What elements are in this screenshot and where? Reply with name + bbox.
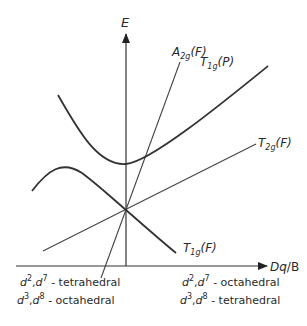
t1gf-label: T1g(F) (183, 241, 217, 257)
right-caption-line-1: d2,d7 - octahedral (182, 274, 280, 289)
left-caption-line-2: d3,d8 - octahedral (17, 292, 115, 307)
left-caption-line-1: d2,d7 - tetrahedral (20, 274, 120, 289)
t1gf-curve (32, 167, 176, 253)
orgel-diagram: E Dq/B A2g(F) T1g(P) T2g(F) T1g(F) d2,d7… (0, 0, 307, 326)
t1gp-label: T1g(P) (200, 55, 234, 71)
dq-axis-label: Dq/B (270, 260, 299, 274)
t2g-label: T2g(F) (258, 136, 292, 152)
right-caption: d2,d7 - octahedral d3,d8 - tetrahedral (180, 274, 280, 307)
right-caption-line-2: d3,d8 - tetrahedral (180, 292, 280, 307)
left-caption: d2,d7 - tetrahedral d3,d8 - octahedral (17, 274, 120, 307)
t1gp-curve (58, 66, 268, 164)
t2g-line (43, 144, 256, 251)
energy-axis-label: E (121, 15, 130, 30)
